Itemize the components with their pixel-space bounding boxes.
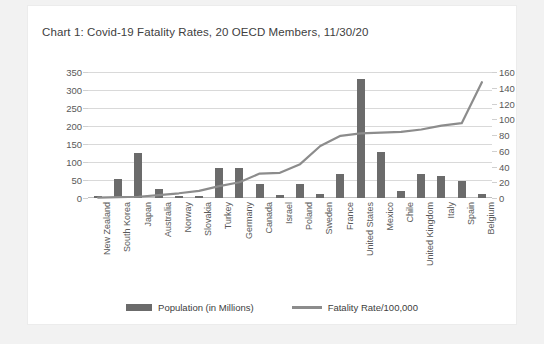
- y-axis-left-tick-label: 100: [66, 157, 82, 168]
- y-axis-right-tick-mark: [492, 182, 497, 183]
- y-axis-right-tick-mark: [492, 167, 497, 168]
- x-axis-category-label: Norway: [183, 202, 193, 233]
- x-axis-category-labels: New ZealandSouth KoreaJapanAustraliaNorw…: [88, 202, 492, 294]
- x-axis-category-label: Slovakia: [203, 202, 213, 236]
- legend-item-population: Population (in Millions): [126, 302, 254, 313]
- y-axis-right-tick-mark: [492, 104, 497, 105]
- legend-item-fatality-rate: Fatality Rate/100,000: [292, 302, 418, 313]
- x-axis-category-label: United States: [365, 202, 375, 256]
- chart-page: Chart 1: Covid-19 Fatality Rates, 20 OEC…: [0, 0, 544, 344]
- legend-bar-swatch-icon: [126, 304, 152, 311]
- x-axis-category-label: Chile: [405, 202, 415, 223]
- x-axis-category-label: France: [345, 202, 355, 230]
- y-axis-right-tick-label: 160: [499, 67, 515, 78]
- y-axis-right-tick-label: 20: [499, 177, 510, 188]
- y-axis-right-tick-label: 100: [499, 114, 515, 125]
- y-axis-right-tick-mark: [492, 72, 497, 73]
- legend-label-population: Population (in Millions): [158, 302, 254, 313]
- y-axis-right-tick-label: 120: [499, 98, 515, 109]
- y-axis-left-tick-label: 200: [66, 121, 82, 132]
- x-axis-category-label: Israel: [284, 202, 294, 224]
- y-axis-right-tick-label: 40: [499, 161, 510, 172]
- y-axis-left-tick-label: 250: [66, 103, 82, 114]
- y-axis-left-tick-label: 0: [77, 193, 82, 204]
- y-axis-right-tick-mark: [492, 88, 497, 89]
- x-axis-category-label: Canada: [264, 202, 274, 234]
- x-axis-category-label: Belgium: [486, 202, 496, 235]
- y-axis-right-tick-label: 80: [499, 130, 510, 141]
- y-axis-right-tick-mark: [492, 151, 497, 152]
- x-axis-category-label: Germany: [244, 202, 254, 239]
- x-axis-category-label: United Kingdom: [425, 202, 435, 266]
- x-axis-category-label: Australia: [163, 202, 173, 237]
- x-axis-category-label: Spain: [466, 202, 476, 225]
- chart-panel: Chart 1: Covid-19 Fatality Rates, 20 OEC…: [28, 6, 516, 324]
- x-axis-category-label: South Korea: [122, 202, 132, 252]
- legend-line-swatch-icon: [292, 306, 322, 309]
- chart-legend: Population (in Millions) Fatality Rate/1…: [28, 302, 516, 313]
- line-series-fatality-rate: [88, 72, 492, 198]
- y-axis-left-tick-label: 350: [66, 67, 82, 78]
- x-axis-category-label: Turkey: [223, 202, 233, 229]
- y-axis-right-tick-label: 0: [499, 193, 504, 204]
- chart-title: Chart 1: Covid-19 Fatality Rates, 20 OEC…: [42, 26, 369, 38]
- y-axis-left-tick-label: 150: [66, 139, 82, 150]
- y-axis-right-tick-label: 60: [499, 145, 510, 156]
- x-axis-category-label: Sweden: [324, 202, 334, 235]
- x-axis-category-label: Poland: [304, 202, 314, 230]
- y-axis-left-tick-mark: [83, 198, 88, 199]
- x-axis-category-label: Japan: [143, 202, 153, 227]
- y-axis-right-tick-mark: [492, 119, 497, 120]
- legend-label-fatality-rate: Fatality Rate/100,000: [328, 302, 418, 313]
- y-axis-right-tick-mark: [492, 198, 497, 199]
- x-axis-category-label: Italy: [446, 202, 456, 219]
- plot-area: 050100150200250300350 020406080100120140…: [88, 72, 492, 198]
- fatality-rate-line: [98, 82, 482, 197]
- y-axis-right-tick-label: 140: [499, 82, 515, 93]
- y-axis-left-tick-label: 50: [71, 175, 82, 186]
- x-axis-category-label: New Zealand: [102, 202, 112, 255]
- x-axis-category-label: Mexico: [385, 202, 395, 231]
- y-axis-right-tick-mark: [492, 135, 497, 136]
- y-axis-left-tick-label: 300: [66, 85, 82, 96]
